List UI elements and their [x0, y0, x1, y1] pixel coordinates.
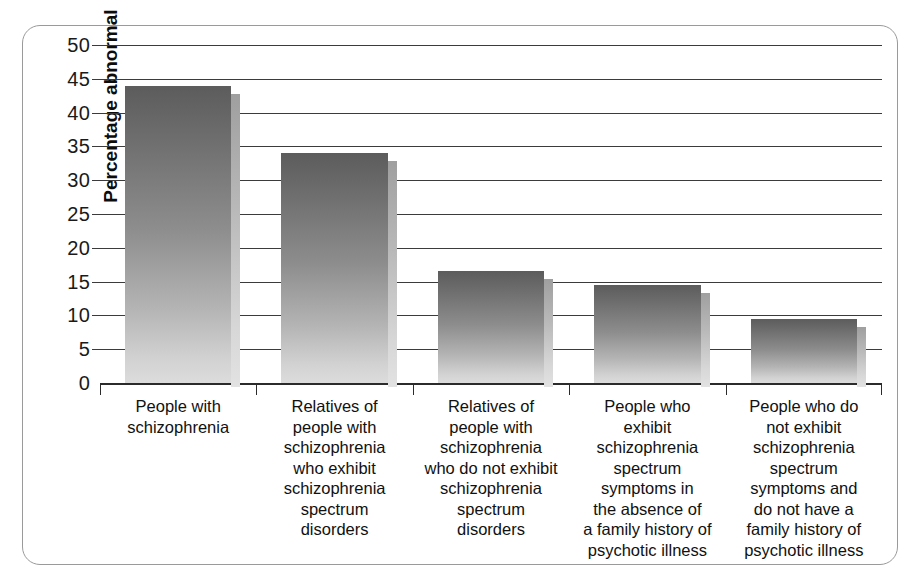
x-category-label-line: schizophrenia	[726, 437, 882, 458]
axis-baseline	[100, 383, 882, 385]
x-category-label-line: spectrum	[726, 458, 882, 479]
bar-shadow	[388, 161, 397, 387]
x-category-label: People who donot exhibitschizophreniaspe…	[726, 396, 882, 560]
y-axis-tick-labels: 50 45 40 35 30 25 20 15 10 5 0	[46, 45, 90, 383]
bar-relatives-exhibit-spectrum	[281, 153, 387, 383]
y-tick-label: 0	[79, 372, 90, 395]
x-category-label-line: schizophrenia	[569, 437, 725, 458]
bar-slot	[413, 45, 569, 383]
x-category-label-line: psychotic illness	[726, 540, 882, 561]
x-category-label-line: spectrum	[569, 458, 725, 479]
x-category-label-line: people with	[256, 417, 412, 438]
x-category-label-line: Relatives of	[256, 396, 412, 417]
chart-figure: Percentage abnormal 50 45 40 35 30 25 20…	[0, 0, 923, 584]
x-tick-mark	[726, 383, 727, 395]
x-category-label: People whoexhibitschizophreniaspectrumsy…	[569, 396, 725, 560]
bar-people-with-schizophrenia	[125, 86, 231, 383]
x-category-label-line: psychotic illness	[569, 540, 725, 561]
x-category-label-line: schizophrenia	[413, 437, 569, 458]
x-tick-mark	[100, 383, 101, 395]
bar-shadow	[701, 293, 710, 387]
x-category-label-line: people with	[413, 417, 569, 438]
y-tick-label: 45	[67, 67, 90, 90]
x-category-label-line: exhibit	[569, 417, 725, 438]
x-category-label-line: spectrum	[256, 499, 412, 520]
x-category-label-line: family history of	[726, 519, 882, 540]
x-category-label-line: who exhibit	[256, 458, 412, 479]
bar-slot	[569, 45, 725, 383]
bar-series	[100, 45, 882, 383]
x-category-label-line: symptoms in	[569, 478, 725, 499]
bar-slot	[726, 45, 882, 383]
x-category-label-line: do not have a	[726, 499, 882, 520]
x-category-label-line: symptoms and	[726, 478, 882, 499]
x-category-label-line: People with	[100, 396, 256, 417]
y-tick-label: 5	[79, 338, 90, 361]
bar-slot	[100, 45, 256, 383]
bar-shadow	[544, 279, 553, 387]
y-tick-label: 50	[67, 34, 90, 57]
x-category-label-line: spectrum	[413, 499, 569, 520]
y-tick-label: 30	[67, 169, 90, 192]
y-tick-label: 35	[67, 135, 90, 158]
x-category-label-line: People who	[569, 396, 725, 417]
bar-shadow	[857, 327, 866, 387]
y-tick-label: 15	[67, 270, 90, 293]
x-category-label-line: a family history of	[569, 519, 725, 540]
x-category-label-line: schizophrenia	[256, 437, 412, 458]
y-tick-label: 40	[67, 101, 90, 124]
bar-symptoms-no-family-history	[594, 285, 700, 383]
y-tick-label: 25	[67, 203, 90, 226]
x-tick-mark	[413, 383, 414, 395]
bar-no-symptoms-no-family-history	[751, 319, 857, 383]
x-category-label: Relatives ofpeople withschizophreniawho …	[256, 396, 412, 540]
x-category-label-line: People who do	[726, 396, 882, 417]
x-category-label-line: disorders	[413, 519, 569, 540]
x-category-label-line: disorders	[256, 519, 412, 540]
x-category-label: People withschizophrenia	[100, 396, 256, 437]
x-category-label-line: schizophrenia	[256, 478, 412, 499]
bar-shadow	[231, 94, 240, 387]
x-tick-mark	[256, 383, 257, 395]
x-axis-category-labels: People withschizophrenia Relatives ofpeo…	[100, 396, 882, 566]
x-category-label-line: schizophrenia	[100, 417, 256, 438]
x-category-label-line: the absence of	[569, 499, 725, 520]
x-tick-mark	[881, 383, 882, 395]
y-tick-label: 10	[67, 304, 90, 327]
x-tick-mark	[569, 383, 570, 395]
bar-relatives-no-spectrum	[438, 271, 544, 383]
x-category-label-line: schizophrenia	[413, 478, 569, 499]
x-category-label-line: not exhibit	[726, 417, 882, 438]
x-category-label-line: Relatives of	[413, 396, 569, 417]
bar-slot	[256, 45, 412, 383]
x-category-label: Relatives ofpeople withschizophreniawho …	[413, 396, 569, 540]
x-category-label-line: who do not exhibit	[413, 458, 569, 479]
y-tick-label: 20	[67, 236, 90, 259]
